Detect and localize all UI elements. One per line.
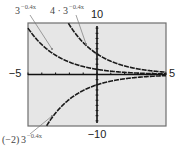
- label-f1-base: 3: [15, 5, 20, 16]
- calculator-graph-figure: 10 −10 −5 5 3 −0.4x 4 · 3 −0.4x (−2) 3 −…: [0, 0, 179, 146]
- label-f2-base: 3: [63, 5, 68, 16]
- xmax-label: 5: [169, 67, 175, 79]
- label-f3: (−2) 3 −0.4x: [2, 132, 43, 146]
- label-f3-base: 3: [21, 134, 26, 145]
- xmin-label: −5: [9, 67, 22, 79]
- label-f3-prefix: (−2): [2, 134, 19, 146]
- leader-arrow-icon: [51, 115, 53, 117]
- label-f2: 4 · 3 −0.4x: [50, 3, 85, 16]
- leader-arrow-icon: [51, 48, 53, 50]
- label-f3-exponent: −0.4x: [27, 132, 43, 139]
- label-f2-prefix: 4 ·: [50, 5, 61, 16]
- leader-arrow-icon: [85, 43, 87, 45]
- label-f1-exponent: −0.4x: [21, 3, 37, 10]
- ymin-label: −10: [88, 128, 107, 140]
- ymax-label: 10: [91, 8, 103, 20]
- label-f1: 3 −0.4x: [15, 3, 37, 16]
- label-f2-exponent: −0.4x: [69, 3, 85, 10]
